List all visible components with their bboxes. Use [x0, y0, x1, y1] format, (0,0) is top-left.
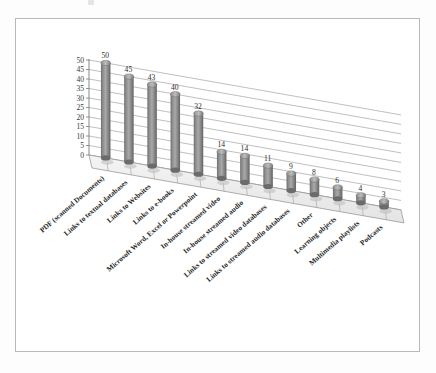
- y-axis-tick-label: 0: [80, 151, 84, 160]
- y-axis-tick-label: 30: [76, 94, 84, 103]
- bar-value-label: 6: [335, 176, 339, 185]
- y-axis-tick-label: 50: [76, 56, 84, 65]
- bar-value-label: 40: [171, 83, 179, 92]
- bar-cylinder: [379, 199, 392, 214]
- bar-cylinder: [310, 177, 323, 202]
- y-axis-tick-label: 40: [76, 75, 84, 84]
- bar-cylinder: [124, 74, 137, 169]
- bar-value-label: 50: [101, 51, 109, 60]
- y-axis-tick-label: 25: [76, 103, 84, 112]
- bar-value-label: 11: [264, 154, 272, 163]
- bar-value-label: 3: [382, 190, 386, 199]
- bar-cylinder: [194, 111, 207, 181]
- y-axis-tick-label: 15: [76, 122, 84, 131]
- bar-value-label: 14: [241, 144, 249, 153]
- y-axis-tick-label: 35: [76, 84, 84, 93]
- y-axis-tick-label: 45: [76, 65, 84, 74]
- y-axis-tick-label: 5: [80, 141, 84, 150]
- category-label: Multimedia playlists: [307, 218, 361, 267]
- category-labels: PDF (scanned Documents)Links to textual …: [38, 173, 385, 283]
- bar-value-label: 4: [358, 184, 362, 193]
- scan-artifact: [88, 0, 94, 5]
- bar-value-label: 43: [148, 73, 156, 82]
- bar-value-label: 45: [125, 65, 133, 74]
- category-label: Podcasts: [358, 223, 385, 248]
- bar-cylinder: [147, 82, 160, 173]
- bar-cylinder: [101, 60, 114, 164]
- bar-chart: 05101520253035404550 5045434032141411986…: [16, 19, 419, 351]
- bar-value-label: 32: [194, 102, 202, 111]
- y-axis-tick-label: 20: [76, 113, 84, 122]
- bar-cylinder: [356, 193, 369, 210]
- bar-cylinder: [333, 185, 346, 206]
- y-axis-tick-label: 10: [76, 132, 84, 141]
- bar-value-label: 14: [217, 140, 225, 149]
- bar-cylinder: [287, 171, 299, 197]
- category-label: Other: [295, 210, 316, 230]
- y-axis: 05101520253035404550: [76, 56, 89, 160]
- chart-page-frame: 05101520253035404550 5045434032141411986…: [15, 18, 420, 352]
- bar-value-label: 8: [312, 168, 316, 177]
- bar-value-label: 9: [289, 162, 293, 171]
- chart-canvas: 05101520253035404550 5045434032141411986…: [16, 19, 419, 351]
